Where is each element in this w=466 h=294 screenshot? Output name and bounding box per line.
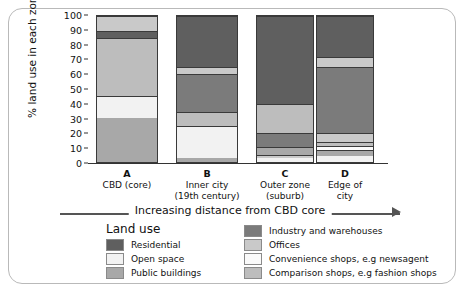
bar-segment xyxy=(177,112,237,125)
bar-segment xyxy=(177,74,237,112)
y-axis-label: % land use in each zone xyxy=(26,0,38,124)
y-tick-label: 20 xyxy=(56,128,82,139)
bar-segment xyxy=(177,158,237,162)
legend-item-label: Comparison shops, e.g fashion shops xyxy=(269,268,437,278)
y-tick-mark xyxy=(84,29,88,30)
bar-label-d: D xyxy=(316,168,374,179)
legend-swatch-icon xyxy=(244,225,262,237)
bar-c[interactable] xyxy=(256,15,314,163)
y-tick-mark xyxy=(84,44,88,45)
y-tick-label: 90 xyxy=(56,24,82,35)
y-axis-ticks: 0102030405060708090100 xyxy=(56,15,82,163)
bar-segment xyxy=(97,96,157,118)
bar-caption-line: (suburb) xyxy=(266,191,304,201)
bar-d[interactable] xyxy=(316,15,374,163)
bar-caption-line: Outer zone xyxy=(260,180,310,190)
legend-item[interactable]: Open space xyxy=(106,252,184,265)
x-axis-line xyxy=(88,163,388,164)
bar-caption-line: CBD (core) xyxy=(103,180,152,190)
legend-item[interactable]: Offices xyxy=(244,238,300,251)
y-tick-mark xyxy=(84,89,88,90)
bar-segment xyxy=(317,57,373,67)
legend-item[interactable]: Industry and warehouses xyxy=(244,224,382,237)
y-tick-mark xyxy=(84,148,88,149)
bar-b[interactable] xyxy=(176,15,238,163)
legend-title: Land use xyxy=(106,222,160,236)
bar-segment xyxy=(97,38,157,96)
bar-segment xyxy=(97,31,157,38)
bar-segment xyxy=(177,126,237,158)
bar-caption-d: Edge ofcity xyxy=(308,180,382,202)
bar-segment xyxy=(97,118,157,162)
legend-item[interactable]: Public buildings xyxy=(106,266,201,279)
legend-item[interactable]: Convenience shops, e.g newsagent xyxy=(244,252,428,265)
y-tick-label: 70 xyxy=(56,54,82,65)
y-tick-label: 30 xyxy=(56,113,82,124)
y-tick-label: 10 xyxy=(56,143,82,154)
legend-swatch-icon xyxy=(244,239,262,251)
bar-segment xyxy=(177,16,237,67)
legend-item-label: Offices xyxy=(269,240,300,250)
bar-a[interactable] xyxy=(96,15,158,163)
y-tick-label: 50 xyxy=(56,84,82,95)
bar-segment xyxy=(317,16,373,57)
bar-label-b: B xyxy=(176,168,238,179)
bar-segment xyxy=(257,133,313,148)
bar-segment xyxy=(317,156,373,162)
legend-swatch-icon xyxy=(244,267,262,279)
y-tick-mark xyxy=(84,15,88,16)
legend-item[interactable]: Comparison shops, e.g fashion shops xyxy=(244,266,437,279)
legend-item[interactable]: Residential xyxy=(106,238,181,251)
y-tick-mark xyxy=(84,163,88,164)
y-tick-label: 100 xyxy=(56,10,82,21)
legend-item-label: Industry and warehouses xyxy=(269,226,382,236)
x-axis-caption: Increasing distance from CBD core xyxy=(129,204,332,217)
y-tick-mark xyxy=(84,103,88,104)
plot-area xyxy=(88,15,385,163)
bar-segment xyxy=(317,67,373,133)
y-tick-mark xyxy=(84,118,88,119)
bar-label-a: A xyxy=(96,168,158,179)
legend-item-label: Open space xyxy=(131,254,184,264)
legend-item-label: Public buildings xyxy=(131,268,201,278)
y-tick-label: 60 xyxy=(56,69,82,80)
legend-swatch-icon xyxy=(106,267,124,279)
y-tick-mark xyxy=(84,133,88,134)
arrow-head-icon xyxy=(392,207,401,217)
legend-swatch-icon xyxy=(244,253,262,265)
legend-swatch-icon xyxy=(106,253,124,265)
bar-caption-a: CBD (core) xyxy=(88,180,166,191)
bar-segment xyxy=(257,104,313,133)
bar-caption-line: city xyxy=(337,191,353,201)
distance-arrow: Increasing distance from CBD core xyxy=(60,206,400,220)
bar-caption-b: Inner city(19th century) xyxy=(168,180,246,202)
stacked-bar-chart: % land use in each zone 0102030405060708… xyxy=(0,0,466,294)
bar-caption-line: Inner city xyxy=(186,180,228,190)
legend: Land use ResidentialOpen spacePublic bui… xyxy=(106,222,416,280)
y-tick-label: 80 xyxy=(56,39,82,50)
bar-segment xyxy=(257,16,313,104)
bar-segment xyxy=(177,67,237,74)
y-tick-mark xyxy=(84,59,88,60)
y-tick-label: 40 xyxy=(56,98,82,109)
bar-segment xyxy=(257,147,313,154)
bar-caption-line: (19th century) xyxy=(174,191,239,201)
bar-segment xyxy=(317,133,373,142)
bar-caption-line: Edge of xyxy=(328,180,362,190)
legend-item-label: Residential xyxy=(131,240,181,250)
bar-segment xyxy=(257,158,313,162)
bar-label-c: C xyxy=(256,168,314,179)
legend-swatch-icon xyxy=(106,239,124,251)
legend-item-label: Convenience shops, e.g newsagent xyxy=(269,254,428,264)
y-tick-label: 0 xyxy=(56,158,82,169)
y-tick-mark xyxy=(84,74,88,75)
bar-segment xyxy=(97,16,157,31)
